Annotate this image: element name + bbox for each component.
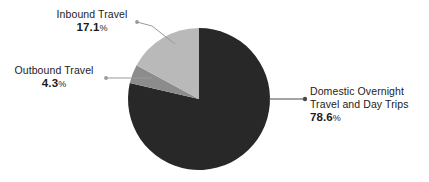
pie-label-domestic-overnight: Domestic Overnight Travel and Day Trips …: [310, 85, 426, 125]
pie-label-outbound-travel: Outbound Travel 4.3%: [8, 64, 100, 91]
pie-label-domestic-category-line2: Travel and Day Trips: [310, 98, 426, 111]
pie-label-domestic-value-line: 78.6%: [310, 111, 426, 125]
pie-label-outbound-value-line: 4.3%: [8, 77, 100, 91]
pie-label-inbound-category: Inbound Travel: [57, 8, 128, 20]
pie-label-domestic-value: 78.6: [310, 111, 333, 123]
pie-label-outbound-percent-sign: %: [58, 79, 66, 89]
pie-label-domestic-percent-sign: %: [333, 113, 341, 123]
leader-line-domestic: [269, 97, 307, 101]
pie-label-outbound-category: Outbound Travel: [14, 64, 93, 76]
pie-label-inbound-percent-sign: %: [99, 23, 107, 33]
pie-label-inbound-value: 17.1: [77, 21, 100, 33]
pie-label-inbound-travel: Inbound Travel 17.1%: [46, 8, 138, 35]
pie-label-domestic-category-line1: Domestic Overnight: [310, 85, 426, 98]
pie-chart-figure: Inbound Travel 17.1% Outbound Travel 4.3…: [0, 0, 429, 182]
pie-label-inbound-value-line: 17.1%: [46, 21, 138, 35]
pie-label-outbound-value: 4.3: [42, 77, 58, 89]
